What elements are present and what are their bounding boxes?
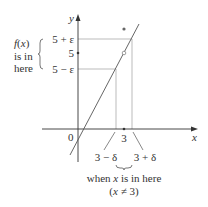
x-label-3: 3	[121, 132, 127, 144]
bottom-annotation-line2: (x ≠ 3)	[109, 185, 139, 198]
bottom-annotation-line1: when x is in here	[87, 172, 162, 184]
left-brace-icon	[38, 39, 43, 69]
y-label-5-minus-epsilon: 5 − ε	[52, 63, 74, 75]
y-label-5: 5	[69, 47, 75, 59]
open-point-limit	[122, 51, 126, 55]
x-label-3-minus-delta: 3 − δ	[95, 151, 117, 163]
y-axis-arrow-icon	[76, 14, 81, 21]
bottom-brace-icon	[116, 165, 132, 170]
epsilon-delta-diagram: y x 0 5 + ε 5 5 − ε f(x) is in here 3 3 …	[0, 0, 208, 207]
pointer-3-minus-delta	[104, 132, 115, 150]
origin-label: 0	[68, 131, 74, 143]
annotation-fx: f(x)	[14, 37, 30, 50]
filled-point-f3	[122, 27, 125, 30]
y-label-5-plus-epsilon: 5 + ε	[52, 33, 74, 45]
y-tick-5-dot	[77, 52, 80, 55]
function-line	[70, 24, 139, 155]
pointer-3-plus-delta	[133, 132, 143, 150]
x-axis-label: x	[191, 131, 197, 143]
x-label-3-plus-delta: 3 + δ	[134, 151, 156, 163]
annotation-here: here	[14, 62, 33, 74]
y-axis-label: y	[68, 12, 74, 24]
annotation-is-in: is in	[14, 50, 33, 62]
x-tick-3-dot	[123, 128, 126, 131]
